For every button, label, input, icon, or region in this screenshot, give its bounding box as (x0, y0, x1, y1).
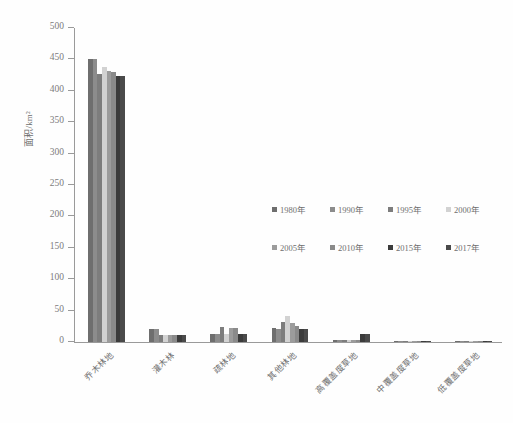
bar[interactable] (304, 329, 309, 342)
y-axis-tick-label: 400 (50, 83, 64, 96)
legend-item[interactable]: 1995年 (388, 203, 446, 215)
legend-row: 1980年1990年1995年2000年 (272, 203, 504, 215)
y-axis-tick: 150 (68, 247, 74, 248)
bar[interactable] (182, 335, 187, 342)
y-axis-line (74, 28, 75, 343)
y-axis-tick: 300 (68, 153, 74, 154)
y-axis-tick-label: 450 (50, 51, 64, 64)
bar[interactable] (487, 341, 492, 342)
y-axis-tick: 250 (68, 184, 74, 185)
bar-group (210, 28, 247, 342)
bar-group (455, 28, 492, 342)
x-axis-line (74, 342, 502, 343)
bar-group (149, 28, 186, 342)
legend-swatch-icon (330, 207, 335, 212)
y-axis-tick: 200 (68, 215, 74, 216)
bar[interactable] (243, 334, 248, 342)
legend-swatch-icon (272, 245, 277, 250)
legend-item[interactable]: 1990年 (330, 203, 388, 215)
chart-legend: 1980年1990年1995年2000年2005年2010年2015年2017年 (272, 203, 504, 279)
bar[interactable] (120, 76, 125, 342)
y-axis-tick-label: 500 (50, 20, 64, 33)
legend-item-label: 1995年 (396, 203, 422, 215)
legend-item-label: 1980年 (280, 203, 306, 215)
y-axis-tick: 400 (68, 90, 74, 91)
legend-item-label: 2005年 (280, 241, 306, 253)
legend-item[interactable]: 1980年 (272, 203, 330, 215)
chart-figure: 面积/km² 050100150200250300350400450500 乔木… (0, 0, 513, 423)
y-axis-tick: 50 (68, 310, 74, 311)
legend-swatch-icon (330, 245, 335, 250)
y-axis-tick-label: 150 (50, 240, 64, 253)
y-axis-tick: 100 (68, 278, 74, 279)
legend-row: 2005年2010年2015年2017年 (272, 241, 504, 253)
legend-item[interactable]: 2017年 (446, 241, 504, 253)
y-axis-tick-label: 350 (50, 114, 64, 127)
legend-item[interactable]: 2010年 (330, 241, 388, 253)
legend-item-label: 1990年 (338, 203, 364, 215)
y-axis-tick-label: 300 (50, 146, 64, 159)
bar[interactable] (426, 341, 431, 342)
legend-item[interactable]: 2000年 (446, 203, 504, 215)
y-axis-label: 面积/km² (22, 84, 35, 174)
y-axis-tick-label: 250 (50, 177, 64, 190)
y-axis-tick-label: 200 (50, 208, 64, 221)
bar-group (272, 28, 309, 342)
legend-swatch-icon (446, 245, 451, 250)
legend-item-label: 2010年 (338, 241, 364, 253)
legend-item-label: 2015年 (396, 241, 422, 253)
y-axis-tick: 350 (68, 121, 74, 122)
legend-swatch-icon (388, 207, 393, 212)
bar-group (88, 28, 125, 342)
bar[interactable] (365, 334, 370, 342)
bar-group (394, 28, 431, 342)
legend-item[interactable]: 2005年 (272, 241, 330, 253)
legend-item-label: 2000年 (454, 203, 480, 215)
plot-area: 050100150200250300350400450500 (74, 28, 502, 343)
y-axis-tick-label: 0 (59, 334, 64, 347)
legend-swatch-icon (446, 207, 451, 212)
y-axis-tick: 500 (68, 27, 74, 28)
bar-group (333, 28, 370, 342)
y-axis-tick: 0 (68, 341, 74, 342)
y-axis-tick-label: 100 (50, 271, 64, 284)
legend-item-label: 2017年 (454, 241, 480, 253)
legend-item[interactable]: 2015年 (388, 241, 446, 253)
legend-swatch-icon (272, 207, 277, 212)
y-axis-tick: 450 (68, 58, 74, 59)
y-axis-tick-label: 50 (55, 303, 65, 316)
legend-swatch-icon (388, 245, 393, 250)
